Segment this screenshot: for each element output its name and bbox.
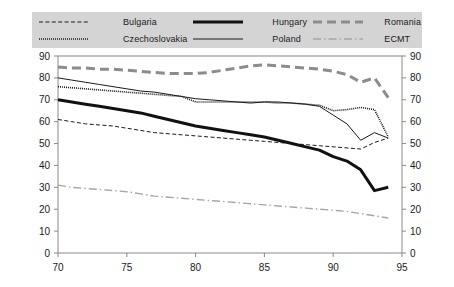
legend-key-romania [307,13,384,30]
chart-legend: Bulgaria Hungary Romania Czechoslovakia [32,12,422,48]
legend-key-poland [187,30,272,47]
legend-key-ecmt [307,30,384,47]
series-line-ecmt [58,185,388,218]
series-line-romania [58,65,388,98]
y-tick-label-right: 40 [410,160,422,171]
y-tick-label-left: 0 [44,248,50,259]
legend-label-romania: Romania [384,13,421,30]
y-tick-label-right: 0 [410,248,416,259]
y-tick-label-right: 50 [410,138,422,149]
y-axis-ticks-left [54,56,58,253]
y-tick-label-left: 30 [39,182,51,193]
x-axis-ticks [58,253,402,257]
y-tick-label-left: 90 [39,51,51,62]
y-axis-labels-right: 0102030405060708090 [410,51,422,259]
y-axis-ticks-right [402,56,406,253]
y-tick-label-left: 10 [39,226,51,237]
y-tick-label-right: 30 [410,182,422,193]
legend-label-hungary: Hungary [272,13,307,30]
chart-page: Bulgaria Hungary Romania Czechoslovakia [0,0,454,287]
series-line-bulgaria [58,119,388,149]
y-tick-label-left: 60 [39,116,51,127]
y-tick-label-left: 80 [39,72,51,83]
series-line-hungary [58,100,388,191]
x-tick-label: 80 [190,262,202,273]
y-tick-label-right: 20 [410,204,422,215]
legend-key-czechoslovakia [33,30,123,47]
x-tick-label: 95 [396,262,408,273]
legend-label-bulgaria: Bulgaria [123,13,187,30]
y-tick-label-right: 70 [410,94,422,105]
legend-key-bulgaria [33,13,123,30]
legend-label-ecmt: ECMT [384,30,421,47]
x-tick-label: 90 [328,262,340,273]
y-tick-label-left: 70 [39,94,51,105]
data-series-layer [58,65,388,218]
y-tick-label-right: 10 [410,226,422,237]
legend-key-hungary [187,13,272,30]
y-tick-label-right: 60 [410,116,422,127]
legend-label-poland: Poland [272,30,307,47]
x-tick-label: 85 [259,262,271,273]
x-tick-label: 70 [52,262,64,273]
y-tick-label-right: 80 [410,72,422,83]
x-tick-label: 75 [121,262,133,273]
line-chart: 707580859095 0102030405060708090 0102030… [0,50,454,287]
legend-label-czechoslovakia: Czechoslovakia [123,30,187,47]
y-tick-label-left: 20 [39,204,51,215]
y-tick-label-left: 40 [39,160,51,171]
plot-frame [58,56,402,253]
y-tick-label-left: 50 [39,138,51,149]
y-axis-labels-left: 0102030405060708090 [39,51,51,259]
y-tick-label-right: 90 [410,51,422,62]
x-axis-labels: 707580859095 [52,262,408,273]
